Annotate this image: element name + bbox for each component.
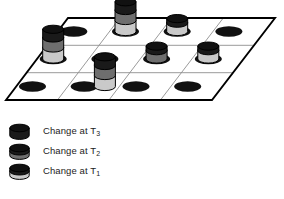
legend-label-subscript: 1	[96, 170, 100, 177]
legend-label-subscript: 3	[96, 130, 100, 137]
legend-label-t1: Change at T1	[43, 166, 100, 177]
legend-swatch-t2	[8, 143, 31, 160]
legend-item-t2: Change at T2	[8, 141, 100, 161]
node-ellipse	[215, 26, 242, 36]
node-ellipse	[71, 81, 98, 91]
legend-swatch-t3	[8, 123, 31, 140]
legend-swatch-t1	[8, 163, 31, 180]
legend-item-t1: Change at T1	[8, 161, 100, 181]
cylinder-marker-t3-t2-t1	[43, 25, 64, 63]
node-ellipse	[19, 81, 46, 91]
legend-label-prefix: Change at T	[43, 125, 96, 136]
legend-label-prefix: Change at T	[43, 145, 96, 156]
legend-label-subscript: 2	[96, 150, 100, 157]
grid-figure	[0, 0, 284, 118]
legend-label-prefix: Change at T	[43, 165, 96, 176]
node-ellipse	[60, 26, 87, 36]
node-ellipse	[123, 81, 150, 91]
node-ellipse	[174, 81, 201, 91]
cylinder-marker-t3-t1	[167, 15, 188, 36]
legend-label-t3: Change at T3	[43, 126, 100, 137]
legend-label-t2: Change at T2	[43, 146, 100, 157]
cylinder-marker-t3-t2-t1	[94, 53, 115, 91]
legend: Change at T3 Change at T2	[0, 117, 284, 199]
cylinder-marker-t3-t2-t1	[115, 0, 136, 36]
legend-item-t3: Change at T3	[8, 121, 100, 141]
figure-root: Change at T3 Change at T2	[0, 0, 284, 199]
cylinder-marker-t3-t2	[146, 42, 167, 63]
cylinder-marker-t3-t1	[198, 42, 219, 63]
